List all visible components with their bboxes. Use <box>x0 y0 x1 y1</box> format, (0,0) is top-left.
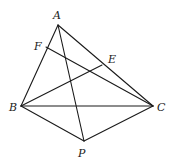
point-label-p: P <box>77 147 86 160</box>
point-label-a: A <box>52 9 61 22</box>
point-label-e: E <box>107 53 116 66</box>
point-label-b: B <box>8 101 17 114</box>
segment-bp <box>21 106 84 141</box>
segment-ap <box>58 25 84 141</box>
segment-cp <box>84 106 153 141</box>
segment-ac <box>58 25 153 106</box>
point-label-c: C <box>157 101 166 114</box>
segment-ab <box>21 25 58 106</box>
point-label-f: F <box>33 40 42 53</box>
segment-cf <box>46 47 153 106</box>
geometry-diagram: A F E B C P <box>0 0 170 168</box>
labels-group: A F E B C P <box>8 9 166 160</box>
